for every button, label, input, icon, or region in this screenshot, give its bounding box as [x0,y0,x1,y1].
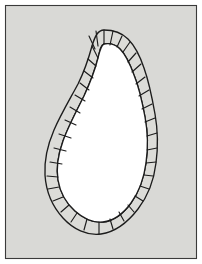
figure-container: Segmented pear-shaped outline Line drawi… [0,0,202,264]
pear-outline-diagram [0,0,202,264]
